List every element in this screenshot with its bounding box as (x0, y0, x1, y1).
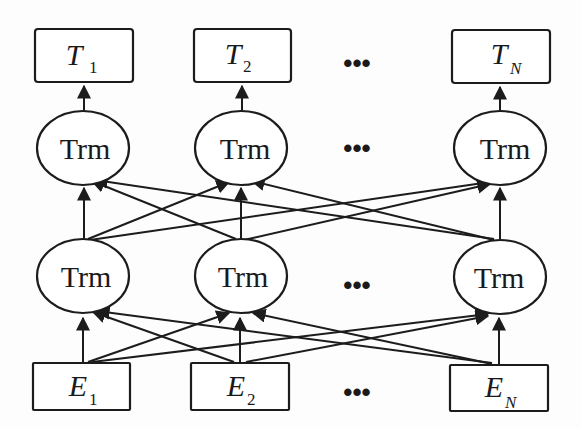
trm-node-bottom-N: Trm (454, 240, 546, 314)
transformer-layer-bottom: Trm Trm ••• Trm (37, 239, 546, 314)
output-subscript: N (509, 59, 523, 78)
trm-node-top-2: Trm (195, 111, 287, 185)
output-subscript: 2 (243, 57, 252, 76)
trm-node-bottom-2: Trm (195, 239, 287, 313)
input-box-E2: E 2 (191, 363, 289, 410)
trm-label: Trm (220, 132, 271, 165)
ellipsis-top-layer: ••• (343, 133, 370, 163)
output-subscript: 1 (89, 58, 98, 77)
output-box-TN: T N (452, 30, 550, 83)
input-row: E 1 E 2 ••• E N (33, 363, 548, 412)
output-box-T1: T 1 (35, 29, 133, 82)
trm-label: Trm (218, 260, 269, 293)
output-symbol: T (66, 38, 85, 71)
edges-top-to-outputs (84, 86, 500, 111)
input-subscript: 1 (89, 390, 98, 409)
transformer-layer-top: Trm Trm ••• Trm (37, 111, 546, 185)
trm-label: Trm (480, 132, 531, 165)
input-symbol: E (226, 369, 245, 402)
trm-label: Trm (60, 132, 111, 165)
input-symbol: E (484, 370, 503, 403)
output-box-T2: T 2 (194, 29, 291, 82)
input-box-E1: E 1 (33, 363, 130, 410)
ellipsis-outputs: ••• (343, 48, 370, 78)
output-symbol: T (225, 37, 244, 70)
trm-node-top-1: Trm (37, 111, 129, 185)
input-box-EN: E N (450, 365, 548, 412)
input-subscript: 2 (247, 390, 256, 409)
diagram-canvas: T 1 T 2 ••• T N Trm Trm (0, 0, 581, 429)
trm-node-top-N: Trm (454, 111, 546, 185)
output-symbol: T (491, 37, 510, 70)
trm-label: Trm (61, 260, 112, 293)
edges-bottom-to-top-layer (84, 180, 500, 240)
ellipsis-inputs: ••• (343, 377, 370, 407)
trm-node-bottom-1: Trm (37, 239, 129, 313)
trm-label: Trm (474, 261, 525, 294)
bert-architecture-diagram: T 1 T 2 ••• T N Trm Trm (0, 0, 581, 429)
input-symbol: E (68, 369, 87, 402)
input-subscript: N (504, 393, 518, 412)
edges-inputs-to-bottom-layer (83, 311, 499, 364)
ellipsis-bottom-layer: ••• (343, 270, 370, 300)
output-row: T 1 T 2 ••• T N (35, 29, 550, 83)
